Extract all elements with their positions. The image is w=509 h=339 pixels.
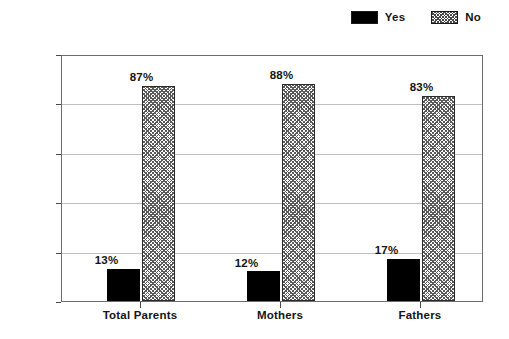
bar-fathers-no[interactable]	[422, 96, 455, 301]
bar-label-mothers-yes: 12%	[217, 257, 277, 269]
bar-mothers-no[interactable]	[282, 84, 315, 301]
bar-total-parents-no[interactable]	[142, 86, 175, 301]
y-tick-mark-0	[56, 302, 61, 303]
x-category-label-mothers: Mothers	[210, 309, 350, 321]
legend-label-no: No	[465, 11, 481, 23]
bar-label-fathers-no: 83%	[392, 81, 452, 93]
x-tick-mark-mothers	[280, 302, 281, 308]
bar-label-total-parents-no: 87%	[112, 71, 172, 83]
legend-swatch-no-icon	[431, 11, 458, 24]
legend-entry-yes: Yes	[351, 11, 405, 24]
chart-legend: Yes No	[0, 6, 509, 28]
bar-label-fathers-yes: 17%	[357, 244, 417, 256]
x-category-label-fathers: Fathers	[350, 309, 490, 321]
x-category-label-total-parents: Total Parents	[70, 309, 210, 321]
x-tick-mark-fathers	[420, 302, 421, 308]
legend-entry-no: No	[431, 11, 481, 24]
legend-swatch-yes-icon	[351, 11, 378, 24]
legend-label-yes: Yes	[385, 11, 405, 23]
bar-mothers-yes[interactable]	[247, 271, 280, 301]
bar-fathers-yes[interactable]	[387, 259, 420, 301]
gridline-80	[62, 104, 482, 105]
bar-label-mothers-no: 88%	[252, 69, 312, 81]
gridline-60	[62, 154, 482, 155]
bar-label-total-parents-yes: 13%	[77, 254, 137, 266]
x-tick-mark-total-parents	[140, 302, 141, 308]
gridline-40	[62, 203, 482, 204]
bar-total-parents-yes[interactable]	[107, 269, 140, 301]
